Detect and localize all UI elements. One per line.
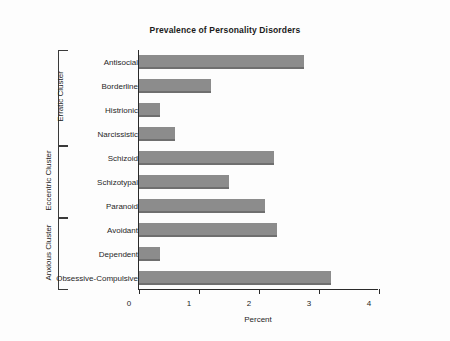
bar xyxy=(139,175,229,190)
bar xyxy=(139,79,211,94)
bar xyxy=(139,151,274,166)
category-label: Dependent xyxy=(46,250,138,259)
plot-axes: 01234 xyxy=(138,50,378,290)
x-axis-tick xyxy=(199,289,200,294)
x-axis-tick-label: 3 xyxy=(299,299,319,308)
x-axis-tick-label: 1 xyxy=(179,299,199,308)
chart-figure: Prevalence of Personality Disorders Erra… xyxy=(0,0,450,341)
x-axis-tick xyxy=(319,289,320,294)
plot-area: AntisocialBorderlineHistrionicNarcissist… xyxy=(74,45,386,295)
category-label: Narcissistic xyxy=(46,130,138,139)
category-label: Schizotypal xyxy=(46,178,138,187)
category-label: Histrionic xyxy=(46,106,138,115)
x-axis-title: Percent xyxy=(138,315,378,324)
bar xyxy=(139,103,160,118)
category-label: Avoidant xyxy=(46,226,138,235)
category-label: Paranoid xyxy=(46,202,138,211)
x-axis-tick xyxy=(379,289,380,294)
x-axis-tick-label: 0 xyxy=(119,299,139,308)
x-axis-tick-label: 4 xyxy=(359,299,379,308)
bar xyxy=(139,247,160,262)
x-axis-tick-label: 2 xyxy=(239,299,259,308)
category-label: Schizoid xyxy=(46,154,138,163)
category-label: Obsessive-Compulsive xyxy=(46,274,138,283)
bar xyxy=(139,55,304,70)
category-axis-labels: AntisocialBorderlineHistrionicNarcissist… xyxy=(74,50,138,290)
bar xyxy=(139,271,331,286)
chart-title: Prevalence of Personality Disorders xyxy=(0,25,450,35)
category-label: Antisocial xyxy=(46,58,138,67)
x-axis-tick xyxy=(139,289,140,294)
bar xyxy=(139,199,265,214)
bar xyxy=(139,127,175,142)
category-label: Borderline xyxy=(46,82,138,91)
x-axis-tick xyxy=(259,289,260,294)
bar xyxy=(139,223,277,238)
